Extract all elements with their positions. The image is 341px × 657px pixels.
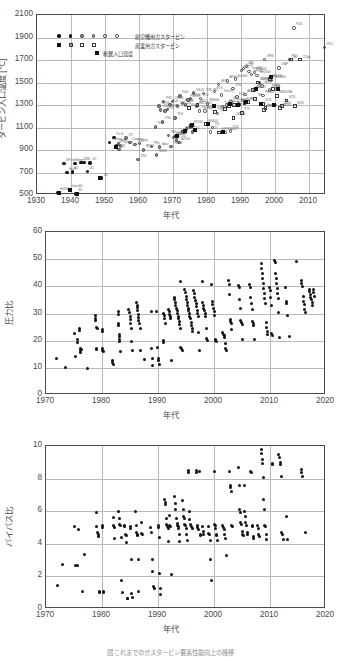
data-point — [86, 170, 89, 173]
data-point — [261, 462, 264, 465]
point-label: J形 — [293, 55, 297, 59]
data-point — [151, 558, 154, 561]
data-point — [162, 341, 165, 344]
data-point — [125, 534, 128, 537]
data-point — [188, 518, 191, 521]
gridline-vertical — [270, 446, 271, 607]
data-point — [249, 286, 252, 289]
data-point — [238, 298, 241, 301]
data-point — [176, 104, 179, 107]
point-label: JT9D — [165, 117, 171, 120]
point-label: W2 — [75, 167, 79, 170]
data-point — [243, 484, 246, 487]
data-point — [158, 145, 161, 148]
data-point — [285, 302, 288, 305]
data-point — [245, 524, 248, 527]
data-point — [101, 526, 104, 529]
data-point — [71, 170, 74, 173]
figure-caption: 図 これまでのガスタービン要素性能向上の推移 — [0, 648, 341, 657]
gridline-horizontal — [46, 544, 324, 545]
y-axis-tick-label: 0 — [10, 389, 42, 398]
data-point — [170, 359, 173, 362]
data-point — [261, 277, 264, 280]
x-axis-tick-label: 2020 — [309, 396, 341, 405]
data-point — [256, 81, 260, 85]
data-point — [201, 525, 204, 528]
data-point — [269, 75, 273, 79]
point-label: J31 — [90, 167, 94, 170]
y-axis-tick-label: 1500 — [3, 77, 33, 86]
point-label: RB199 — [159, 150, 167, 153]
data-point — [205, 327, 208, 330]
data-point — [151, 364, 154, 367]
x-axis-tick-label: 2020 — [309, 610, 341, 619]
gridline-horizontal — [37, 128, 324, 129]
point-label: CF34 — [235, 84, 241, 87]
data-point — [169, 145, 172, 148]
data-point — [130, 592, 133, 595]
data-point — [246, 533, 249, 536]
data-point — [243, 510, 246, 513]
data-point — [228, 102, 232, 106]
data-point — [165, 517, 168, 520]
data-point — [276, 287, 279, 290]
data-point — [225, 554, 228, 557]
y-axis-tick-label: 1300 — [3, 99, 33, 108]
data-point — [62, 162, 65, 165]
data-point — [223, 336, 226, 339]
point-label: 7FA — [257, 94, 262, 97]
plot-area-2 — [45, 231, 325, 394]
data-point — [212, 104, 216, 108]
data-point — [236, 103, 240, 107]
data-point — [225, 349, 228, 352]
gridline-horizontal — [46, 259, 324, 260]
y-axis-label-3: バイパス比 — [2, 492, 14, 562]
data-point — [260, 452, 263, 455]
data-point — [118, 517, 121, 520]
x-axis-tick-label: 1990 — [224, 196, 256, 205]
data-point — [190, 123, 194, 127]
data-point — [202, 533, 205, 536]
y-axis-tick-label: 10 — [10, 440, 42, 449]
data-point — [206, 339, 209, 342]
gridline-horizontal — [46, 576, 324, 577]
data-point — [264, 525, 267, 528]
data-point — [196, 103, 200, 107]
legend-marker — [80, 43, 84, 47]
point-label: MS9001 — [209, 120, 219, 123]
data-point — [265, 533, 268, 536]
plot-frame-2 — [45, 231, 325, 394]
point-label: TF41 — [177, 113, 183, 116]
data-point — [177, 527, 180, 530]
data-point — [201, 280, 204, 283]
plot-area-1: HeS3BJumo004W1HeS8W2J31DH GoblinNeneJ33J… — [36, 14, 325, 194]
data-point — [271, 334, 274, 337]
y-axis-tick-label: 8 — [10, 473, 42, 482]
data-point — [79, 351, 82, 354]
data-point — [73, 332, 76, 335]
data-point — [228, 293, 231, 296]
data-point — [300, 471, 303, 474]
point-label: M701G2 — [272, 75, 282, 78]
data-point — [252, 324, 255, 327]
data-point — [136, 158, 139, 161]
data-point — [250, 302, 253, 305]
y-axis-tick-label: 900 — [3, 144, 33, 153]
data-point — [77, 528, 80, 531]
data-point — [258, 535, 261, 538]
point-label: M701B — [217, 107, 225, 110]
legend-marker — [57, 43, 61, 47]
data-point — [113, 526, 116, 529]
data-point — [208, 533, 211, 536]
y-axis-tick-label: 500 — [3, 189, 33, 198]
data-point — [263, 297, 266, 300]
data-point — [213, 110, 217, 114]
data-point — [158, 363, 161, 366]
data-point — [68, 188, 72, 192]
data-point — [241, 323, 244, 326]
data-point — [126, 597, 129, 600]
point-label: XF9-1 — [327, 43, 334, 46]
gridline-vertical — [158, 232, 159, 393]
data-point — [209, 558, 212, 561]
data-point — [301, 475, 304, 478]
